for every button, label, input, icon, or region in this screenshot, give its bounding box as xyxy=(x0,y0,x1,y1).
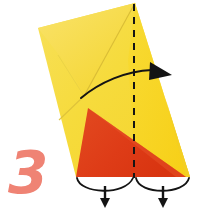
pleat-head-left xyxy=(100,198,110,208)
fold-arrow-head xyxy=(149,62,172,80)
step-number: 3 xyxy=(8,139,48,207)
pleat-head-right xyxy=(158,198,168,208)
pleat-arrow-right xyxy=(136,178,189,208)
folded-paper-shape xyxy=(38,3,190,177)
origami-diagram-canvas: 3 xyxy=(0,0,203,214)
pleat-arrow-left xyxy=(77,178,133,208)
origami-step-figure: 3 xyxy=(0,0,203,214)
